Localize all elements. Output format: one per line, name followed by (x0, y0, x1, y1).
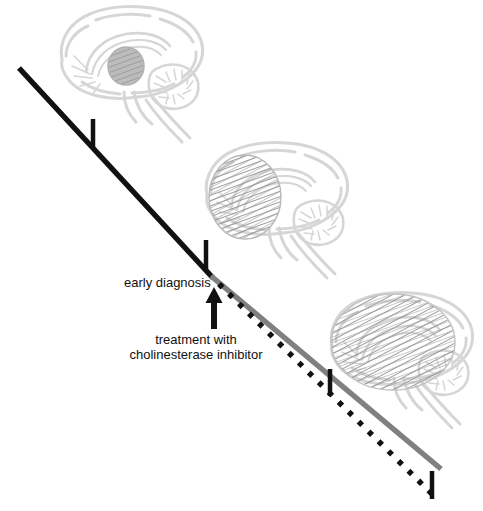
treatment-label-line-1: treatment with (155, 332, 237, 347)
figure-canvas (0, 0, 483, 511)
treatment-label: treatment with cholinesterase inhibitor (120, 332, 272, 362)
progression-figure: early diagnosis treatment with cholinest… (0, 0, 483, 511)
brain-stage-1-lesion (108, 47, 144, 85)
treatment-start-arrow-icon (206, 287, 223, 329)
treatment-label-line-2: cholinesterase inhibitor (120, 347, 272, 362)
early-diagnosis-label: early diagnosis (124, 275, 211, 290)
